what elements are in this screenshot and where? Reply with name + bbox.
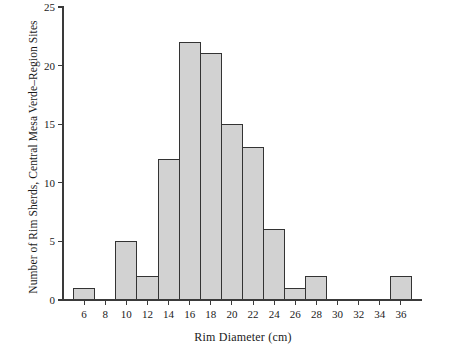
x-tick-label-12: 12 xyxy=(142,308,153,320)
x-tick-label-26: 26 xyxy=(290,308,302,320)
y-axis-ticks: 0510152025 xyxy=(44,1,63,306)
x-axis-ticks: 681012141618202224262830323436 xyxy=(81,300,407,320)
bar-10cm xyxy=(116,241,137,300)
bar-16cm xyxy=(179,42,200,300)
x-tick-label-36: 36 xyxy=(395,308,407,320)
x-tick-label-22: 22 xyxy=(248,308,259,320)
y-tick-label-15: 15 xyxy=(44,118,56,130)
bar-36cm xyxy=(390,277,411,300)
x-tick-label-20: 20 xyxy=(226,308,238,320)
y-tick-label-20: 20 xyxy=(44,60,56,72)
bar-26cm xyxy=(285,288,306,300)
x-tick-label-34: 34 xyxy=(374,308,386,320)
x-tick-label-6: 6 xyxy=(81,308,87,320)
x-tick-label-32: 32 xyxy=(353,308,364,320)
bar-18cm xyxy=(200,54,221,300)
x-tick-label-14: 14 xyxy=(163,308,175,320)
x-tick-label-30: 30 xyxy=(332,308,344,320)
bar-22cm xyxy=(243,148,264,300)
x-tick-label-8: 8 xyxy=(102,308,108,320)
plot-area: 681012141618202224262830323436 051015202… xyxy=(0,0,450,358)
y-tick-label-10: 10 xyxy=(44,177,56,189)
bar-24cm xyxy=(264,230,285,300)
x-tick-label-18: 18 xyxy=(205,308,217,320)
bar-12cm xyxy=(137,277,158,300)
bar-14cm xyxy=(158,159,179,300)
y-tick-label-0: 0 xyxy=(50,294,56,306)
bar-28cm xyxy=(306,277,327,300)
y-tick-label-25: 25 xyxy=(44,1,56,13)
bar-20cm xyxy=(221,124,242,300)
y-tick-label-5: 5 xyxy=(50,235,56,247)
x-tick-label-28: 28 xyxy=(311,308,323,320)
x-tick-label-16: 16 xyxy=(184,308,196,320)
x-tick-label-10: 10 xyxy=(121,308,133,320)
x-tick-label-24: 24 xyxy=(269,308,281,320)
histogram-figure: Number of Rim Sherds, Central Mesa Verde… xyxy=(0,0,450,358)
bar-6cm xyxy=(74,288,95,300)
bars-group xyxy=(74,42,412,300)
